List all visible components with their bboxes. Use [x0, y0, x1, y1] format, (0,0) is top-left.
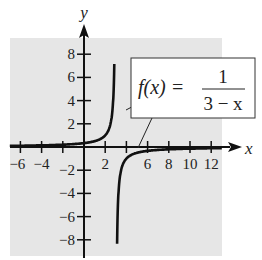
x-axis-arrow-icon — [228, 142, 242, 152]
x-tick-label: 12 — [204, 156, 219, 172]
y-tick-label: 2 — [68, 116, 76, 132]
y-tick-label: −8 — [59, 232, 75, 248]
annotation-lhs: f(x) = — [138, 76, 184, 99]
annotation-numerator: 1 — [218, 66, 228, 87]
x-tick-label: 6 — [144, 156, 152, 172]
y-tick-label: 8 — [68, 46, 76, 62]
plot-svg: −6−426810128642−2−4−6−8 f(x) = 1 3 − x y… — [0, 0, 262, 260]
annotation-denominator: 3 − x — [203, 93, 243, 114]
y-axis-label: y — [78, 3, 88, 22]
x-tick-label: −6 — [9, 156, 25, 172]
y-tick-label: −4 — [59, 185, 75, 201]
y-tick-label: 4 — [68, 93, 76, 109]
chart: −6−426810128642−2−4−6−8 f(x) = 1 3 − x y… — [0, 0, 262, 260]
y-tick-label: 6 — [68, 69, 76, 85]
x-tick-label: 2 — [101, 156, 109, 172]
x-axis-label: x — [244, 139, 253, 158]
x-tick-label: 8 — [165, 156, 173, 172]
y-tick-label: −6 — [59, 209, 75, 225]
x-tick-label: −4 — [34, 156, 50, 172]
x-tick-label: 10 — [183, 156, 198, 172]
y-tick-label: −2 — [59, 162, 75, 178]
